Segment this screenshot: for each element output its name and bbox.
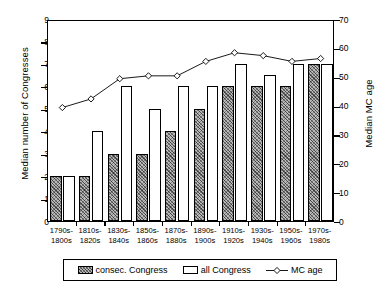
y-axis-left-title: Median number of Congresses bbox=[19, 34, 30, 194]
x-tick-mark bbox=[248, 222, 249, 226]
x-tick-mark bbox=[76, 222, 77, 226]
mc-age-data-point-marker bbox=[174, 73, 180, 79]
legend-item: MC age bbox=[266, 265, 323, 275]
y-tick-label-right: 10 bbox=[339, 189, 355, 198]
x-tick-mark bbox=[191, 222, 192, 226]
bar-consec-congress bbox=[136, 154, 148, 221]
bar-consec-congress bbox=[50, 176, 62, 221]
x-tick-label-line2: 1920s bbox=[223, 236, 244, 245]
bar-all-congress bbox=[121, 86, 133, 221]
x-tick-mark bbox=[133, 222, 134, 226]
x-tick-mark bbox=[162, 222, 163, 226]
bar-consec-congress bbox=[280, 86, 292, 221]
y-tick-mark-right bbox=[334, 78, 340, 79]
bar-consec-congress bbox=[108, 154, 120, 221]
y-tick-label-right: 40 bbox=[339, 102, 355, 111]
y-tick-label-right: 0 bbox=[339, 218, 355, 227]
mc-age-data-point-marker bbox=[318, 55, 324, 61]
mc-age-data-point-marker bbox=[260, 53, 266, 59]
y-tick-mark-right bbox=[334, 222, 340, 223]
bar-all-congress bbox=[264, 75, 276, 221]
bar-all-congress bbox=[63, 176, 75, 221]
x-tick-label-line2: 1980s bbox=[309, 236, 330, 245]
chart-legend: consec. Congressall CongressMC age bbox=[63, 259, 337, 281]
y-tick-label-right: 70 bbox=[339, 16, 355, 25]
x-tick-mark bbox=[219, 222, 220, 226]
y-axis-right-title: Median MC age bbox=[363, 34, 374, 194]
y-tick-mark-right bbox=[334, 20, 340, 21]
x-tick-label-line2: 1940s bbox=[252, 236, 273, 245]
y-tick-mark-right bbox=[334, 49, 340, 50]
bar-all-congress bbox=[207, 86, 219, 221]
y-tick-mark-right bbox=[334, 135, 340, 136]
bar-all-congress bbox=[149, 109, 161, 221]
x-tick-label-line2: 1800s bbox=[51, 236, 72, 245]
x-tick-label: 1970s-1980s bbox=[300, 226, 340, 245]
bar-all-congress bbox=[235, 64, 247, 221]
x-tick-mark bbox=[277, 222, 278, 226]
mc-age-data-point-marker bbox=[145, 73, 151, 79]
mc-age-data-point-marker bbox=[117, 76, 123, 82]
legend-item-label: consec. Congress bbox=[96, 265, 168, 275]
x-tick-label-line1: 1970s- bbox=[308, 226, 331, 235]
bar-all-congress bbox=[321, 64, 333, 221]
bar-all-congress bbox=[92, 131, 104, 221]
bar-consec-congress bbox=[79, 176, 91, 221]
x-tick-label-line2: 1840s bbox=[108, 236, 129, 245]
x-tick-label-line2: 1900s bbox=[194, 236, 215, 245]
x-tick-label-line2: 1860s bbox=[137, 236, 158, 245]
legend-item-label: all Congress bbox=[201, 265, 251, 275]
x-tick-mark bbox=[104, 222, 105, 226]
mc-age-data-point-marker bbox=[59, 104, 65, 110]
x-tick-label-line2: 1820s bbox=[80, 236, 101, 245]
bar-all-congress bbox=[293, 64, 305, 221]
x-tick-label-line2: 1960s bbox=[281, 236, 302, 245]
bar-consec-congress bbox=[165, 131, 177, 221]
mc-age-data-point-marker bbox=[203, 58, 209, 64]
legend-item-label: MC age bbox=[291, 265, 323, 275]
legend-item: all Congress bbox=[183, 265, 251, 275]
y-tick-label-right: 60 bbox=[339, 44, 355, 53]
x-tick-mark bbox=[305, 222, 306, 226]
bar-consec-congress bbox=[222, 86, 234, 221]
y-tick-label-right: 50 bbox=[339, 73, 355, 82]
bar-all-congress bbox=[178, 86, 190, 221]
y-tick-mark-right bbox=[334, 193, 340, 194]
mc-age-data-point-marker bbox=[231, 50, 237, 56]
plot-area bbox=[47, 20, 334, 222]
bar-consec-congress bbox=[194, 109, 206, 221]
y-tick-mark-right bbox=[334, 107, 340, 108]
diamond-line-marker-icon bbox=[266, 266, 288, 275]
y-tick-label-right: 30 bbox=[339, 131, 355, 140]
bar-consec-congress bbox=[251, 86, 263, 221]
open-swatch-icon bbox=[183, 266, 198, 274]
chart-figure: Median number of Congresses Median MC ag… bbox=[0, 0, 388, 294]
bar-consec-congress bbox=[308, 64, 320, 221]
hatched-swatch-icon bbox=[78, 266, 93, 274]
mc-age-data-point-marker bbox=[88, 96, 94, 102]
y-tick-mark-right bbox=[334, 164, 340, 165]
x-tick-label-line2: 1880s bbox=[166, 236, 187, 245]
y-tick-label-right: 20 bbox=[339, 160, 355, 169]
legend-item: consec. Congress bbox=[78, 265, 168, 275]
